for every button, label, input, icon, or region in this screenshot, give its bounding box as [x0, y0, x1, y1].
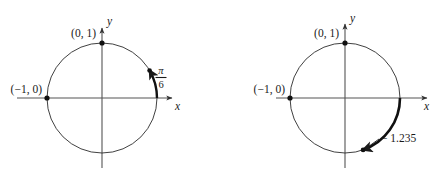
unit-circle-panel-right: y x (0, 1) (−1, 0) − 1.235	[221, 0, 441, 180]
label-point-neg1-0-right: (−1, 0)	[254, 83, 286, 96]
y-axis-label-left: y	[106, 15, 113, 28]
unit-circle-panel-left: y x (0, 1) (−1, 0) π 6	[0, 0, 220, 180]
fraction-numerator-pi: π	[158, 65, 164, 76]
point-terminal-right-panel	[361, 148, 366, 153]
label-point-neg1-0-left: (−1, 0)	[11, 83, 43, 96]
arc-length-label-pi-over-6: π 6	[156, 65, 167, 90]
x-axis-label-left: x	[174, 100, 181, 112]
point-left-right-panel	[287, 95, 292, 100]
arc-length-label-negative-1-235: − 1.235	[381, 132, 416, 144]
x-axis-label-right: x	[423, 100, 430, 112]
arc-pi-over-6	[150, 71, 157, 99]
fraction-denominator-6: 6	[158, 79, 163, 90]
label-point-0-1-right: (0, 1)	[314, 27, 339, 40]
point-terminal-left-panel	[147, 68, 152, 73]
label-point-0-1-left: (0, 1)	[71, 27, 96, 40]
point-left-left-panel	[44, 95, 49, 100]
figure-root: y x (0, 1) (−1, 0) π 6	[0, 0, 441, 180]
y-axis-label-right: y	[349, 12, 356, 25]
point-top-left-panel	[99, 40, 104, 45]
point-top-right-panel	[342, 40, 347, 45]
